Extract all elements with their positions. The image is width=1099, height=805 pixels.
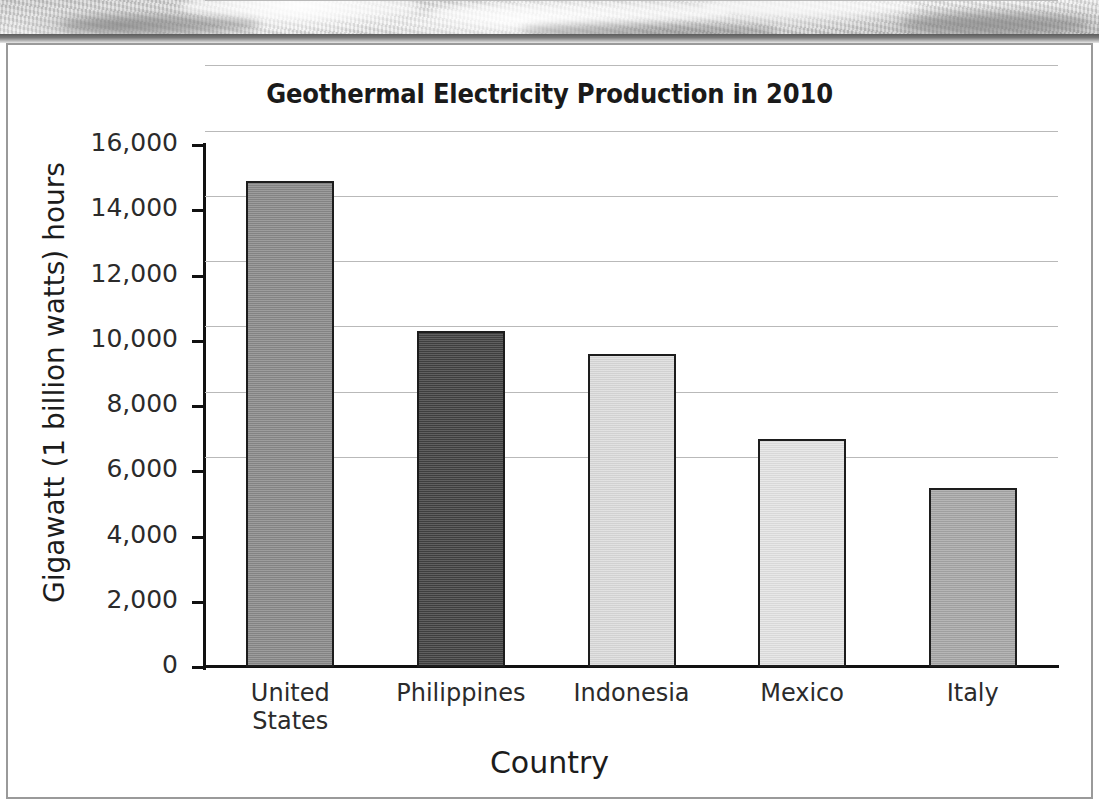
- y-axis-tick-label: 8,000: [68, 389, 178, 418]
- gridline: [205, 65, 1058, 66]
- y-axis-tick: [192, 144, 205, 147]
- x-axis-tick-label: Mexico: [707, 679, 897, 707]
- chart-canvas: Gigawatt (1 billion watts) hours 16,0001…: [0, 0, 1099, 805]
- screenshot-root: Geothermal Electricity Production in 201…: [0, 0, 1099, 805]
- y-axis-tick-label: 12,000: [68, 259, 178, 288]
- y-axis-tick: [192, 340, 205, 343]
- x-axis-title: Country: [0, 745, 1099, 780]
- y-axis-tick: [192, 275, 205, 278]
- gridline: [205, 131, 1058, 132]
- bar-indonesia: [588, 354, 676, 667]
- x-axis-tick-label: UnitedStates: [195, 679, 385, 735]
- y-axis-tick: [192, 666, 205, 669]
- y-axis-tick: [192, 536, 205, 539]
- y-axis-tick-label: 16,000: [68, 128, 178, 157]
- bar-mexico: [758, 439, 846, 667]
- bar-philippines: [417, 331, 505, 667]
- y-axis-tick: [192, 405, 205, 408]
- y-axis-tick-label: 14,000: [68, 193, 178, 222]
- y-axis-tick: [192, 209, 205, 212]
- y-axis-tick: [192, 601, 205, 604]
- x-axis-tick-label: Italy: [878, 679, 1068, 707]
- y-axis-tick-label: 4,000: [68, 520, 178, 549]
- y-axis-tick-label: 2,000: [68, 585, 178, 614]
- y-axis-tick-label: 10,000: [68, 324, 178, 353]
- bar-united-states: [246, 181, 334, 667]
- y-axis-title: Gigawatt (1 billion watts) hours: [38, 123, 71, 643]
- bar-italy: [929, 488, 1017, 667]
- y-axis-tick-label: 0: [68, 650, 178, 679]
- y-axis-tick-label: 6,000: [68, 454, 178, 483]
- gridline: [205, 0, 1058, 1]
- y-axis-tick: [192, 470, 205, 473]
- x-axis-tick-label: Indonesia: [537, 679, 727, 707]
- x-axis-tick-label: Philippines: [366, 679, 556, 707]
